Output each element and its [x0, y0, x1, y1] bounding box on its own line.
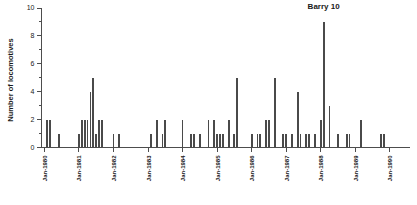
y-tick-label: 6 — [31, 60, 35, 67]
x-tick-label: Jan-1987 — [284, 155, 290, 181]
bar — [156, 120, 158, 148]
bar — [380, 134, 382, 148]
bar — [320, 120, 322, 148]
bar — [228, 120, 230, 148]
bar — [282, 134, 284, 148]
chart-canvas: Number of locomotives 0246810 Jan-1980Ja… — [0, 0, 417, 205]
bar — [95, 134, 97, 148]
bar — [251, 134, 253, 148]
x-tick-label: Jan-1983 — [146, 155, 152, 181]
bar — [337, 134, 339, 148]
bar — [305, 134, 307, 148]
bar — [300, 134, 302, 148]
bar — [346, 134, 348, 148]
x-tick-label: Jan-1986 — [249, 155, 255, 181]
bar — [164, 120, 166, 148]
x-tick-label: Jan-1981 — [76, 155, 82, 181]
bar — [98, 120, 100, 148]
y-tick-label: 8 — [31, 32, 35, 39]
bar — [308, 134, 310, 148]
y-axis-title-text: Number of locomotives — [6, 38, 15, 121]
bar — [285, 134, 287, 148]
bar — [58, 134, 60, 148]
annotation-barry-10: Barry 10 — [308, 2, 341, 11]
bar — [46, 120, 48, 148]
bar — [92, 78, 94, 148]
bar — [222, 134, 224, 148]
bar — [297, 92, 299, 148]
bar — [81, 120, 83, 148]
bar — [323, 22, 325, 148]
x-tick-label: Jan-1988 — [318, 155, 324, 181]
bar — [383, 134, 385, 148]
bar — [291, 134, 293, 148]
x-tick-label: Jan-1990 — [387, 155, 393, 181]
bar — [113, 134, 115, 148]
bar — [219, 134, 221, 148]
bar — [213, 120, 215, 148]
bar — [233, 134, 235, 148]
bar — [101, 120, 103, 148]
bar — [87, 120, 89, 148]
bar — [193, 134, 195, 148]
locomotive-disposals-bar-chart: Number of locomotives 0246810 Jan-1980Ja… — [0, 0, 417, 205]
y-axis-tick-labels: 0246810 — [27, 4, 35, 151]
x-axis-tick-labels: Jan-1980Jan-1981Jan-1982Jan-1983Jan-1984… — [42, 155, 393, 181]
bar — [257, 134, 259, 148]
bar — [208, 120, 210, 148]
x-tick-label: Jan-1980 — [42, 155, 48, 181]
y-tick-label: 4 — [31, 88, 35, 95]
x-tick-label: Jan-1982 — [111, 155, 117, 181]
bar — [78, 134, 80, 148]
bar — [150, 134, 152, 148]
x-tick-label: Jan-1984 — [180, 155, 186, 181]
y-tick-label: 10 — [27, 4, 35, 11]
y-axis-title: Number of locomotives — [6, 38, 15, 121]
bar — [349, 134, 351, 148]
bar — [84, 120, 86, 148]
bar — [360, 120, 362, 148]
bar — [199, 134, 201, 148]
x-tick-label: Jan-1985 — [215, 155, 221, 181]
bar — [268, 120, 270, 148]
bar — [216, 134, 218, 148]
y-tick-label: 0 — [31, 144, 35, 151]
bar — [49, 120, 51, 148]
bar — [190, 134, 192, 148]
bar — [236, 78, 238, 148]
bar — [118, 134, 120, 148]
bar — [314, 134, 316, 148]
chart-annotations: Barry 10 — [308, 2, 341, 11]
x-tick-label: Jan-1989 — [353, 155, 359, 181]
bar — [329, 106, 331, 148]
bar — [265, 120, 267, 148]
y-tick-label: 2 — [31, 116, 35, 123]
x-axis-ticks — [44, 148, 389, 153]
bar-series — [46, 22, 385, 148]
bar — [259, 134, 261, 148]
bar — [182, 120, 184, 148]
bar — [90, 92, 92, 148]
bar — [274, 78, 276, 148]
bar — [162, 134, 164, 148]
